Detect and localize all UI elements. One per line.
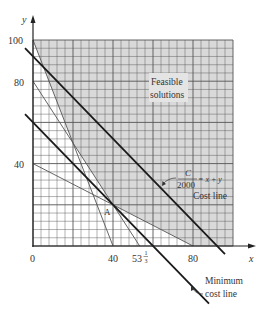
x-axis-label: x	[248, 253, 254, 264]
cost-2000: 2000	[177, 180, 196, 190]
feasible-label-line2: solutions	[150, 90, 185, 100]
svg-text:53: 53	[132, 253, 142, 264]
cost-eq: = x + y	[198, 175, 222, 184]
min-cost-label-line2: cost line	[205, 289, 237, 299]
cost-c: C	[185, 168, 192, 178]
y-tick-100: 100	[8, 35, 23, 46]
min-cost-label-line1: Minimum	[205, 276, 244, 286]
x-tick-40: 40	[108, 253, 118, 264]
svg-text:1: 1	[145, 250, 148, 256]
x-tick-0: 0	[30, 253, 35, 264]
y-axis-arrow-icon	[31, 15, 36, 23]
y-axis-label: y	[21, 14, 27, 25]
linear-programming-chart: y x 100 80 40 0 40 53 1 3 80 A Feasible …	[0, 0, 270, 313]
y-tick-40: 40	[14, 159, 24, 170]
x-tick-80: 80	[188, 253, 198, 264]
cost-line-label: Cost line	[193, 191, 227, 201]
x-axis-arrow-icon	[248, 244, 256, 249]
point-a-label: A	[104, 207, 111, 217]
y-tick-80: 80	[14, 77, 24, 88]
x-tick-53-third: 53 1 3	[132, 250, 148, 264]
feasible-label-line1: Feasible	[151, 77, 183, 87]
svg-text:3: 3	[145, 258, 148, 264]
